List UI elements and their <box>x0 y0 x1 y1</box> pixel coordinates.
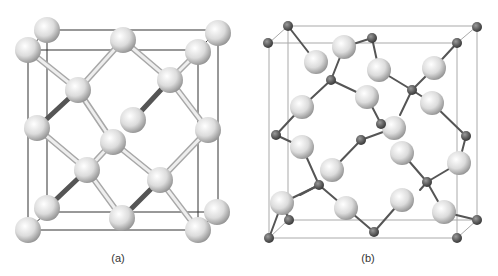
large-atom <box>432 200 456 224</box>
panel-a-diamond-structure <box>15 17 231 243</box>
small-atom <box>356 135 366 145</box>
small-atom <box>314 180 324 190</box>
carbon-atom <box>195 117 221 143</box>
large-atom <box>304 50 328 74</box>
large-atom <box>290 95 314 119</box>
small-atom <box>367 33 377 43</box>
carbon-atom <box>205 20 231 46</box>
large-atom <box>290 135 314 159</box>
small-atom <box>271 130 281 140</box>
carbon-atom <box>15 217 41 243</box>
small-atom <box>422 177 432 187</box>
large-atom <box>422 56 446 80</box>
small-atom <box>283 21 293 31</box>
carbon-atom <box>204 199 230 225</box>
small-atom <box>472 22 482 32</box>
carbon-atom <box>109 205 135 231</box>
carbon-atom <box>120 107 146 133</box>
small-atom <box>376 119 386 129</box>
small-atom <box>452 233 462 243</box>
carbon-atom <box>110 27 136 53</box>
small-atom <box>369 227 379 237</box>
large-atom <box>420 91 444 115</box>
panel-a-caption: (a) <box>111 252 124 264</box>
carbon-atom <box>15 37 41 63</box>
small-atom <box>407 85 417 95</box>
large-atom <box>355 85 379 109</box>
crystal-structure-figure <box>0 0 498 276</box>
large-atom <box>390 188 414 212</box>
carbon-atom <box>185 217 211 243</box>
panel-b-zincblende-structure <box>263 21 482 243</box>
small-atom <box>264 233 274 243</box>
panel-b-caption: (b) <box>361 252 374 264</box>
carbon-atom <box>185 39 211 65</box>
large-atom <box>270 191 294 215</box>
carbon-atom <box>24 115 50 141</box>
large-atom <box>332 35 356 59</box>
carbon-atom <box>74 157 100 183</box>
carbon-atom <box>100 129 126 155</box>
small-atom <box>472 215 482 225</box>
large-atom <box>367 58 391 82</box>
carbon-atom <box>65 77 91 103</box>
carbon-atom <box>147 167 173 193</box>
large-atom <box>334 196 358 220</box>
large-atom <box>447 151 471 175</box>
small-atom <box>263 38 273 48</box>
large-atom <box>320 158 344 182</box>
small-atom <box>326 75 336 85</box>
large-atom <box>390 141 414 165</box>
small-atom <box>284 215 294 225</box>
small-atom <box>461 131 471 141</box>
carbon-atom <box>34 195 60 221</box>
small-atom <box>452 38 462 48</box>
carbon-atom <box>157 67 183 93</box>
carbon-atom <box>34 17 60 43</box>
large-atom <box>382 116 406 140</box>
